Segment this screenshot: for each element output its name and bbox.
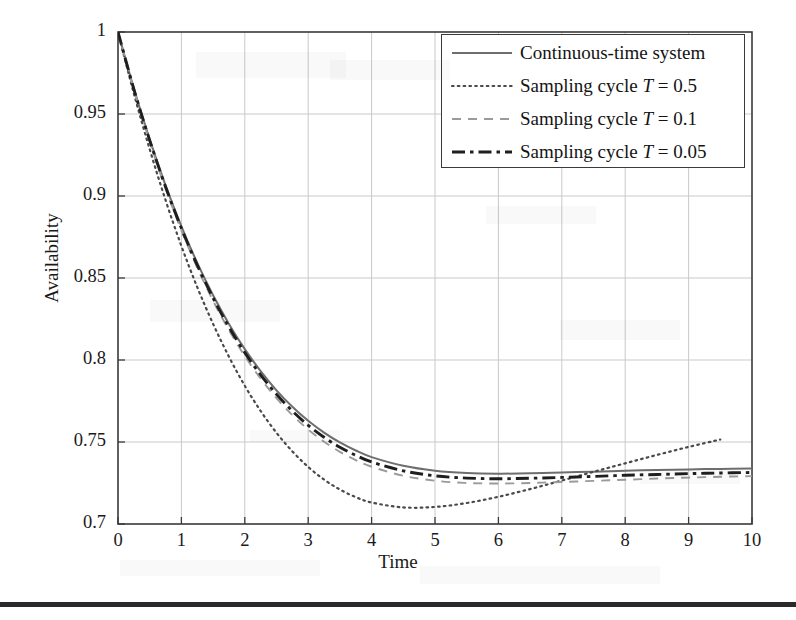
x-tick-label: 8 — [605, 530, 645, 551]
legend-item: Sampling cycle T = 0.05 — [442, 135, 744, 168]
x-tick-label: 0 — [98, 530, 138, 551]
y-tick-label: 0.9 — [26, 184, 106, 205]
y-tick-label: 0.85 — [26, 266, 106, 287]
x-tick-label: 3 — [288, 530, 328, 551]
x-tick-label: 7 — [542, 530, 582, 551]
legend-line-sample — [451, 108, 513, 130]
legend-label: Sampling cycle T = 0.5 — [520, 75, 697, 97]
legend-line-sample — [451, 42, 513, 64]
y-tick-label: 0.7 — [26, 512, 106, 533]
legend-item: Sampling cycle T = 0.5 — [442, 69, 744, 102]
y-tick-label: 1 — [26, 20, 106, 41]
legend-item: Continuous-time system — [442, 36, 744, 69]
legend-item: Sampling cycle T = 0.1 — [442, 102, 744, 135]
x-axis-label: Time — [0, 551, 796, 573]
x-tick-label: 4 — [352, 530, 392, 551]
x-tick-label: 1 — [161, 530, 201, 551]
legend-line-sample — [451, 141, 513, 163]
footer-rule — [0, 602, 796, 607]
x-tick-label: 6 — [478, 530, 518, 551]
x-tick-label: 9 — [669, 530, 709, 551]
y-tick-label: 0.8 — [26, 348, 106, 369]
y-tick-label: 0.95 — [26, 102, 106, 123]
chart-legend: Continuous-time systemSampling cycle T =… — [441, 34, 745, 168]
y-tick-label: 0.75 — [26, 430, 106, 451]
x-tick-label: 5 — [415, 530, 455, 551]
legend-label: Sampling cycle T = 0.1 — [520, 108, 697, 130]
x-tick-label: 10 — [732, 530, 772, 551]
legend-label: Continuous-time system — [520, 42, 705, 64]
figure-container: Availability Time 0.70.750.80.850.90.951… — [0, 0, 796, 620]
legend-line-sample — [451, 75, 513, 97]
legend-label: Sampling cycle T = 0.05 — [520, 141, 706, 163]
x-tick-label: 2 — [225, 530, 265, 551]
y-axis-label: Availability — [41, 203, 63, 313]
